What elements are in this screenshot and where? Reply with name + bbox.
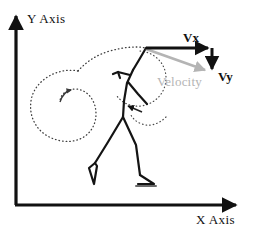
stick-figure-walking-person — [89, 48, 156, 186]
figure-arm-rear — [113, 72, 130, 75]
arm-arc-arrow — [128, 106, 142, 112]
arm-swing-arc — [130, 113, 166, 125]
velocity-vector-line — [146, 49, 205, 70]
y-axis-label: Y Axis — [27, 11, 65, 26]
velocity-vector — [146, 49, 205, 70]
spiral-loop — [31, 70, 96, 141]
figure-arm-front — [128, 82, 147, 104]
vx-label: Vx — [183, 30, 199, 45]
diagram-canvas: Vx Vy Velocity Y Axis X Axis — [0, 0, 254, 232]
x-axis-label: X Axis — [196, 212, 235, 227]
arm-arc-path — [130, 113, 166, 125]
axis-group — [15, 16, 236, 205]
spiral-outer-path — [31, 70, 96, 141]
velocity-label: Velocity — [157, 74, 202, 89]
figure-leg-rear — [95, 117, 123, 163]
figure-foot-rear — [89, 163, 97, 184]
figure-foot-front — [138, 175, 154, 184]
velocity-vector-diagram: Vx Vy Velocity Y Axis X Axis — [0, 0, 254, 232]
figure-torso — [123, 70, 133, 117]
figure-leg-front — [123, 117, 140, 175]
vy-label: Vy — [218, 69, 233, 84]
